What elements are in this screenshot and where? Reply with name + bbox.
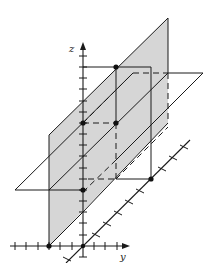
z-axis-arrow-icon	[80, 42, 86, 50]
y-axis-arrow-icon	[122, 243, 130, 249]
y-axis-label: y	[119, 251, 126, 262]
three-d-plane-diagram: z y	[0, 0, 206, 263]
z-axis-label: z	[68, 43, 75, 54]
